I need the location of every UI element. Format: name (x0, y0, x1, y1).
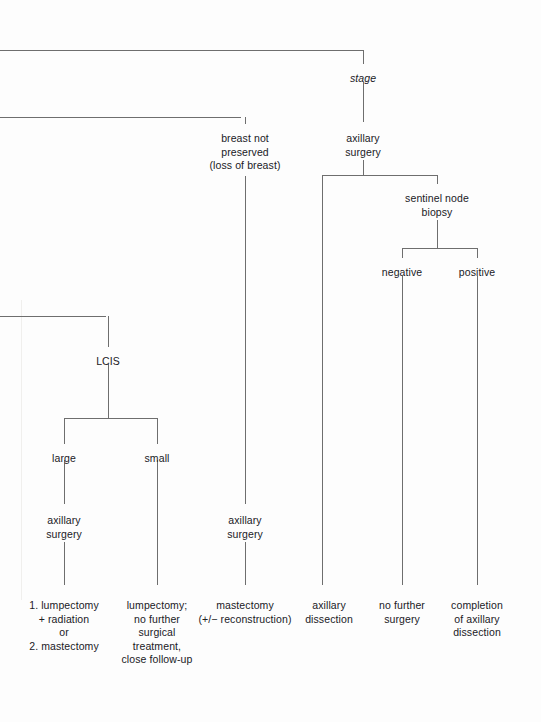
tree-node-axillary-surgery-mid: axillary surgery (227, 514, 263, 541)
tree-node-breast-not-preserved: breast not preserved (loss of breast) (209, 132, 280, 173)
tree-node-stage: stage (350, 72, 376, 86)
tree-node-lcis: LCIS (96, 355, 120, 369)
tree-node-positive: positive (459, 266, 495, 280)
tree-node-leaf-no-further: no further surgery (379, 599, 425, 626)
tree-node-large: large (52, 452, 76, 466)
tree-edge-second-horizontal (0, 117, 245, 118)
tree-node-axillary-surgery-left: axillary surgery (46, 514, 82, 541)
tree-node-leaf-completion: completion of axillary dissection (451, 599, 503, 640)
tree-node-sentinel-node-biopsy: sentinel node biopsy (405, 192, 469, 219)
tree-node-leaf-axillary-diss: axillary dissection (305, 599, 353, 626)
tree-edge-trunk-top-horizontal (0, 50, 363, 51)
tree-node-leaf-lumpectomy-rad: 1. lumpectomy + radiation or 2. mastecto… (29, 599, 99, 653)
tree-node-leaf-mastectomy: mastectomy (+/− reconstruction) (198, 599, 291, 626)
tree-node-axillary-surgery-top: axillary surgery (345, 132, 381, 159)
tree-edge-lcis-horizontal (0, 316, 108, 317)
diagram-page: stagebreast not preserved (loss of breas… (0, 0, 541, 722)
tree-node-leaf-lumpectomy-fu: lumpectomy; no further surgical treatmen… (122, 599, 193, 667)
tree-node-negative: negative (382, 266, 423, 280)
tree-node-small: small (144, 452, 169, 466)
